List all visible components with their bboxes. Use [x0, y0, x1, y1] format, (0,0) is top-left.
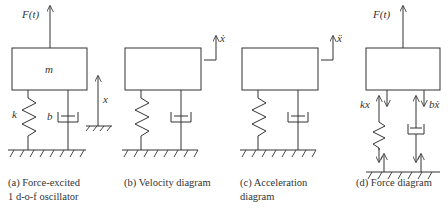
- panel-b-drawing: [122, 36, 216, 157]
- panel-c-drawing: [240, 36, 333, 157]
- caption-b: (b) Velocity diagram: [124, 176, 211, 189]
- acceleration-label: ẍ: [337, 32, 342, 44]
- damper-icon: [288, 90, 308, 150]
- panel-d-drawing: [366, 6, 440, 179]
- caption-c-line1: (c) Acceleration: [240, 176, 307, 189]
- damper-label: b: [47, 110, 53, 122]
- spring-force-label: kx: [360, 98, 370, 110]
- panel-a-drawing: [8, 6, 112, 157]
- force-label: F(t): [373, 8, 390, 20]
- mechanical-oscillator-figure: F(t) m k b x (a) Force-excited 1 d-o-f o…: [0, 0, 448, 212]
- caption-d: (d) Force diagram: [356, 176, 432, 189]
- mass-block: [242, 48, 318, 90]
- mass-block: [125, 48, 201, 90]
- velocity-arrow-icon: [204, 36, 216, 60]
- mass-block: [366, 48, 440, 90]
- spring-label: k: [12, 108, 17, 120]
- force-label: F(t): [22, 8, 39, 20]
- acceleration-arrow-icon: [321, 36, 333, 60]
- spring-icon: [22, 90, 36, 150]
- caption-c-line2: diagram: [240, 190, 274, 203]
- spring-icon: [135, 90, 149, 150]
- damper-force-label: bẋ: [429, 98, 439, 110]
- damper-icon: [171, 90, 191, 150]
- caption-a-line1: (a) Force-excited: [8, 176, 80, 189]
- caption-a-line2: 1 d-o-f oscillator: [8, 190, 79, 203]
- ground-hatch-small: [86, 126, 111, 131]
- mass-label: m: [45, 63, 53, 75]
- spring-icon: [252, 90, 266, 150]
- spring-icon: [373, 118, 385, 150]
- damper-icon: [58, 90, 78, 150]
- velocity-label: ẋ: [220, 32, 225, 44]
- displacement-label: x: [103, 93, 108, 105]
